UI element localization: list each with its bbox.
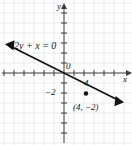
- x-axis-label: x: [123, 75, 127, 84]
- y-axis-label: y: [57, 2, 61, 11]
- graph-figure: 2y + x = 0 (4, −2) x y 0 4 −2: [0, 0, 132, 145]
- point-coordinate-label: (4, −2): [73, 103, 99, 112]
- y-tick-label-neg2: −2: [45, 88, 56, 97]
- equation-label: 2y + x = 0: [14, 41, 56, 51]
- coordinate-plane: [0, 0, 132, 145]
- x-tick-label-4: 4: [84, 79, 89, 88]
- data-point-marker: [84, 91, 88, 95]
- origin-label: 0: [66, 62, 71, 71]
